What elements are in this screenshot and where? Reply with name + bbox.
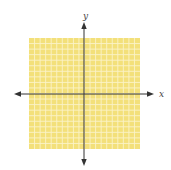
x-axis-left-arrow-icon [14, 91, 21, 96]
x-axis-label: x [159, 89, 164, 99]
coordinate-plane: x y [0, 0, 171, 170]
y-axis-label: y [82, 11, 89, 21]
y-axis-down-arrow-icon [81, 159, 86, 166]
x-axis-right-arrow-icon [147, 91, 154, 96]
y-axis-up-arrow-icon [81, 22, 86, 29]
